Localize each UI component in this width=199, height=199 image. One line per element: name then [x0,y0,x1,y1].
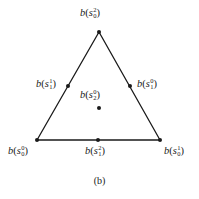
point-label-s1_0: b(s01) [137,79,157,90]
label-variable: s [17,145,21,156]
label-variable: s [89,89,93,100]
label-variable: s [45,78,49,89]
label-indices: 10 [177,145,180,156]
label-indices: 20 [93,7,96,18]
label-subscript: 0 [21,151,24,157]
point-marker-s1_0 [128,84,132,88]
point-label-s0_2: b(s20) [80,8,100,19]
label-subscript: 0 [93,13,96,19]
point-marker-s2_0 [97,106,101,110]
point-marker-s0_0 [35,138,39,142]
figure-caption: (b) [0,175,199,186]
label-paren-close: ) [181,145,185,156]
label-subscript: 0 [177,151,180,157]
label-paren-close: ) [102,145,106,156]
point-marker-s1_2 [96,138,100,142]
point-label-s2_0: b(s02) [80,90,100,101]
label-variable: s [94,145,98,156]
point-label-s1_1: b(s11) [36,79,56,90]
label-subscript: 2 [93,95,96,101]
point-marker-s0_1 [158,138,162,142]
point-label-s0_0: b(s00) [8,146,28,157]
point-marker-s1_1 [66,84,70,88]
label-indices: 00 [21,145,24,156]
label-variable: s [89,7,93,18]
point-label-s0_1: b(s10) [164,146,184,157]
label-subscript: 1 [98,151,101,157]
label-indices: 01 [150,78,153,89]
label-variable: s [173,145,177,156]
label-paren-close: ) [97,7,101,18]
label-paren-close: ) [25,145,29,156]
label-subscript: 1 [49,84,52,90]
label-indices: 21 [98,145,101,156]
label-indices: 11 [49,78,52,89]
label-paren-close: ) [53,78,57,89]
point-marker-s0_2 [97,30,101,34]
label-paren-close: ) [154,78,158,89]
label-paren-close: ) [97,89,101,100]
label-variable: s [146,78,150,89]
label-subscript: 1 [150,84,153,90]
label-indices: 02 [93,89,96,100]
point-label-s1_2: b(s21) [85,146,105,157]
